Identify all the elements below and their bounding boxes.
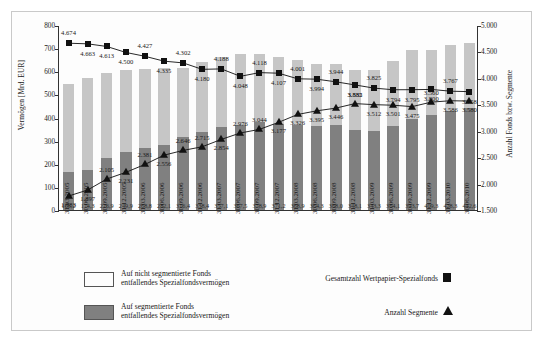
x-tick-label: 30.06.2006 [158, 183, 166, 215]
data-label-segments: 3.044 [252, 116, 267, 123]
legend-line-2: entfallendes Spezialfondsvermögen [121, 278, 229, 287]
x-tick-label: 31.03.2007 [215, 183, 223, 215]
data-label-total-funds: 3.825 [367, 74, 382, 81]
legend-swatch-non-segmented [84, 272, 114, 287]
data-point-segments [141, 160, 149, 167]
data-label-segments: 2.556 [157, 160, 172, 167]
data-label-total-funds: 4.001 [290, 65, 305, 72]
y-axis-label-right: Anzahl Fonds bzw. Segmente [505, 70, 519, 158]
data-label-total-funds: 3.944 [328, 68, 343, 75]
data-label-segments: 3.326 [290, 119, 305, 126]
data-point-segments [389, 101, 397, 108]
x-tick-label: 30.09.2008 [330, 183, 338, 215]
legend-label-segmented: Auf segmentierte Fonds entfallendes Spez… [121, 302, 229, 321]
legend-square-icon [443, 273, 451, 282]
data-label-segments: 2.646 [176, 137, 191, 144]
x-tick-label: 30.09.2007 [253, 183, 261, 215]
data-label-total-funds: 4.302 [176, 49, 191, 56]
legend-triangle-icon [443, 306, 453, 315]
data-point-total-funds [142, 53, 148, 59]
data-point-segments [465, 97, 473, 104]
data-point-segments [351, 99, 359, 106]
y-tick-mark-right [477, 211, 481, 212]
data-point-total-funds [256, 70, 262, 76]
x-tick-label: 30.06.2005 [82, 183, 90, 215]
x-tick-label: 30.09.2006 [177, 183, 185, 215]
x-tick-label: 31.12.2008 [349, 183, 357, 215]
data-point-total-funds [218, 66, 224, 72]
data-point-segments [179, 146, 187, 153]
data-label-segments: 3.177 [271, 127, 286, 134]
data-point-segments [408, 102, 416, 109]
data-point-total-funds [314, 76, 320, 82]
x-tick-label: 31.12.2007 [273, 183, 281, 215]
data-point-total-funds [276, 70, 282, 76]
x-tick-label: 31.12.2006 [196, 183, 204, 215]
data-point-segments [122, 168, 130, 175]
data-label-total-funds: 3.767 [443, 77, 458, 84]
data-point-total-funds [161, 58, 167, 64]
data-label-segments: 3.560 [424, 89, 439, 96]
data-label-total-funds: 3.994 [309, 85, 324, 92]
data-label-total-funds: 4.335 [157, 67, 172, 74]
data-label-total-funds: 4.107 [271, 79, 286, 86]
data-label-segments: 3.586 [443, 106, 458, 113]
data-label-segments: 2.854 [214, 144, 229, 151]
data-label-segments: 2.976 [233, 120, 248, 127]
y-axis-label-left: Vermögen [Mrd. EUR] [17, 60, 31, 130]
data-point-segments [294, 110, 302, 117]
data-label-segments: 3.446 [328, 113, 343, 120]
x-tick-label: 30.06.2010 [463, 183, 471, 215]
data-point-total-funds [390, 87, 396, 93]
x-tick-label: 30.06.2008 [311, 183, 319, 215]
data-point-total-funds [199, 66, 205, 72]
x-tick-label: 31.03.2005 [63, 183, 71, 215]
data-point-segments [313, 107, 321, 114]
x-tick-label: 31.12.2005 [120, 183, 128, 215]
data-point-segments [427, 98, 435, 105]
data-label-total-funds: 4.427 [137, 42, 152, 49]
data-label-segments: 2.105 [99, 166, 114, 173]
legend-label-total-funds: Gesamtzahl Wertpapier-Spezialfonds [318, 274, 438, 283]
data-point-total-funds [66, 40, 72, 46]
data-point-segments [370, 100, 378, 107]
data-point-total-funds [237, 73, 243, 79]
data-label-total-funds: 4.663 [80, 50, 95, 57]
y-tick-mark-left [55, 211, 59, 212]
data-label-segments: 3.532 [347, 91, 362, 98]
legend-line-1: Auf segmentierte Fonds [121, 302, 194, 311]
data-point-segments [217, 135, 225, 142]
x-tick-label: 31.03.2010 [444, 183, 452, 215]
data-label-segments: 3.580 [462, 106, 477, 113]
data-point-segments [332, 104, 340, 111]
data-point-segments [236, 129, 244, 136]
data-point-segments [103, 175, 111, 182]
data-point-total-funds [447, 88, 453, 94]
x-tick-label: 30.06.2009 [387, 183, 395, 215]
data-label-total-funds: 4.674 [61, 29, 76, 36]
data-point-total-funds [333, 79, 339, 85]
data-point-total-funds [371, 85, 377, 91]
data-label-segments: 2.715 [195, 134, 210, 141]
legend-swatch-segmented [84, 305, 114, 320]
data-label-segments: 2.381 [137, 151, 152, 158]
data-point-total-funds [104, 43, 110, 49]
data-label-total-funds: 4.048 [233, 82, 248, 89]
data-point-segments [255, 125, 263, 132]
data-label-total-funds: 4.180 [195, 75, 210, 82]
data-label-total-funds: 4.188 [214, 55, 229, 62]
x-tick-label: 30.09.2005 [101, 183, 109, 215]
legend-line-2: entfallendes Spezialfondsvermögen [121, 311, 229, 320]
data-point-segments [275, 118, 283, 125]
data-point-segments [198, 143, 206, 150]
x-tick-label: 31.12.2009 [425, 183, 433, 215]
x-tick-label: 31.03.2009 [368, 183, 376, 215]
data-label-total-funds: 4.500 [118, 58, 133, 65]
data-point-segments [160, 151, 168, 158]
data-point-total-funds [123, 49, 129, 55]
legend-line-1: Auf nicht segmentierte Fonds [121, 269, 211, 278]
data-point-total-funds [180, 60, 186, 66]
data-label-total-funds: 4.613 [99, 52, 114, 59]
legend-label-segments: Anzahl Segmente [338, 308, 438, 317]
data-label-segments: 3.395 [309, 116, 324, 123]
